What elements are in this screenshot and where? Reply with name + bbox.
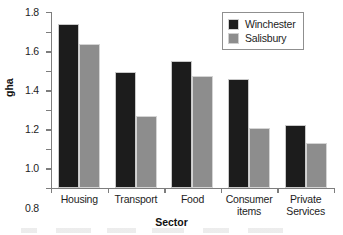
scan-artifact — [8, 228, 328, 233]
category-label-line: Food — [164, 194, 221, 206]
x-axis-tick — [51, 188, 52, 193]
x-axis-tick — [108, 188, 109, 193]
legend: WinchesterSalisbury — [222, 12, 304, 50]
bar-winchester-housing — [58, 24, 79, 188]
x-axis-category-label: Transport — [108, 194, 165, 217]
y-axis-title: gha — [3, 78, 15, 97]
category-label-line: Private — [277, 194, 334, 206]
y-axis-tick-label: 1.8 — [25, 6, 39, 18]
category-label-layer: HousingTransportFoodConsumeritemsPrivate… — [51, 194, 334, 217]
legend-item-winchester: Winchester — [228, 17, 296, 31]
x-axis-tick — [221, 188, 222, 193]
bar-chart: Sector gha 0.00.20.40.60.81.01.21.41.61.… — [0, 0, 343, 235]
category-label-line: Services — [277, 206, 334, 218]
y-axis-tick-label: 1.2 — [25, 123, 39, 135]
x-axis-tick — [164, 188, 165, 193]
x-axis-category-label: Housing — [51, 194, 108, 217]
bar-winchester-consumer-items — [228, 79, 249, 188]
category-label-line: Transport — [108, 194, 165, 206]
bar-winchester-private-services — [285, 125, 306, 188]
x-axis-tick — [334, 188, 335, 193]
x-axis-category-label: Food — [164, 194, 221, 217]
category-label-line: Housing — [51, 194, 108, 206]
category-label-line: Consumer — [221, 194, 278, 206]
bar-group — [108, 12, 165, 188]
bar-salisbury-transport — [136, 116, 157, 188]
bar-salisbury-food — [192, 76, 213, 188]
x-axis-title: Sector — [0, 216, 343, 228]
y-axis-tick-label: 1.4 — [25, 84, 39, 96]
bar-group — [51, 12, 108, 188]
x-axis-line — [51, 188, 334, 189]
x-axis-tick — [277, 188, 278, 193]
bar-salisbury-consumer-items — [249, 128, 270, 188]
x-axis-category-label: Consumeritems — [221, 194, 278, 217]
bar-group — [164, 12, 221, 188]
y-axis-tick-label: 1.6 — [25, 45, 39, 57]
y-axis-tick-label: 1.0 — [25, 162, 39, 174]
bar-winchester-food — [171, 61, 192, 188]
bar-winchester-transport — [115, 72, 136, 188]
bar-salisbury-housing — [79, 44, 100, 188]
legend-swatch — [228, 33, 239, 44]
legend-label: Winchester — [245, 18, 296, 30]
bar-salisbury-private-services — [306, 143, 327, 188]
category-label-line: items — [221, 206, 278, 218]
legend-swatch — [228, 19, 239, 30]
x-axis-category-label: PrivateServices — [277, 194, 334, 217]
legend-label: Salisbury — [245, 32, 286, 44]
legend-item-salisbury: Salisbury — [228, 31, 296, 45]
y-axis-tick-label: 0.8 — [25, 202, 39, 214]
